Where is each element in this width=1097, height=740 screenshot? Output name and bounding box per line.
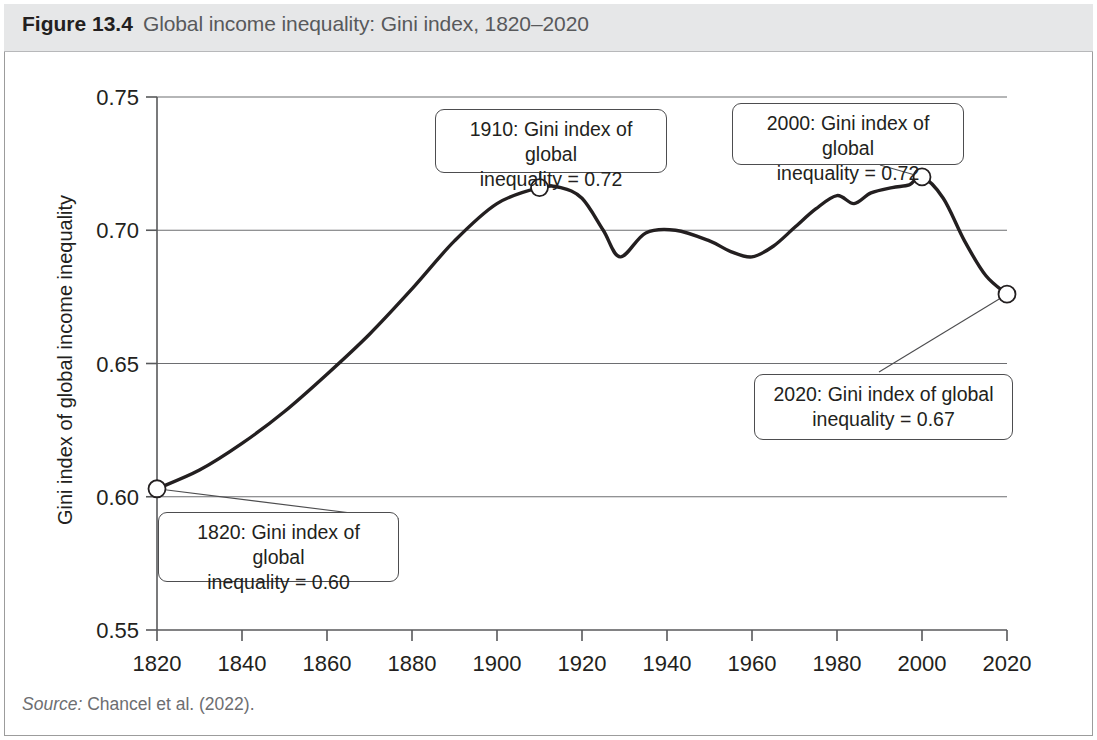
y-tick-label-0.55: 0.55 <box>96 618 139 643</box>
y-tick-label-0.75: 0.75 <box>96 85 139 110</box>
x-tick-label-1840: 1840 <box>218 651 267 676</box>
x-tick-label-1920: 1920 <box>558 651 607 676</box>
leader-2020 <box>879 294 1007 372</box>
annotation-1820: 1820: Gini index of global inequality = … <box>158 512 399 582</box>
figure-container: Figure 13.4Global income inequality: Gin… <box>0 0 1097 740</box>
gini-index-line <box>157 177 1007 489</box>
x-tick-label-1960: 1960 <box>728 651 777 676</box>
x-axis-tick-labels: 1820184018601880190019201940196019802000… <box>133 651 1032 676</box>
x-tick-label-1900: 1900 <box>473 651 522 676</box>
x-tick-label-1820: 1820 <box>133 651 182 676</box>
source-note: Source: Chancel et al. (2022). <box>22 694 255 715</box>
annotation-2020: 2020: Gini index of global inequality = … <box>754 374 1013 440</box>
y-tick-label-0.70: 0.70 <box>96 218 139 243</box>
x-tick-label-2000: 2000 <box>898 651 947 676</box>
x-tick-label-1880: 1880 <box>388 651 437 676</box>
annotation-1910: 1910: Gini index of global inequality = … <box>435 109 667 173</box>
source-citation: Chancel et al. (2022). <box>82 694 254 714</box>
y-tick-label-0.65: 0.65 <box>96 352 139 377</box>
y-axis-title: Gini index of global income inequality <box>54 195 76 525</box>
data-point-markers <box>149 168 1016 497</box>
annotation-leader-lines <box>157 165 1007 519</box>
y-tick-label-0.60: 0.60 <box>96 485 139 510</box>
source-label: Source: <box>22 694 82 714</box>
y-axis-tick-labels: 0.550.600.650.700.75 <box>96 85 139 643</box>
x-tick-label-1980: 1980 <box>813 651 862 676</box>
x-tick-label-1860: 1860 <box>303 651 352 676</box>
x-tick-label-1940: 1940 <box>643 651 692 676</box>
x-tick-label-2020: 2020 <box>983 651 1032 676</box>
annotation-2000: 2000: Gini index of global inequality = … <box>732 103 964 165</box>
marker-1820 <box>149 480 166 497</box>
marker-2020 <box>999 286 1016 303</box>
